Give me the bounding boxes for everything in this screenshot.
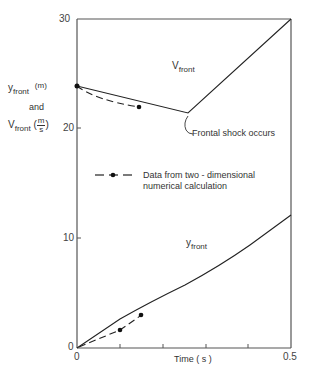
legend-text-line2: numerical calculation [143,182,227,191]
y-axis-label-and: and [29,103,68,112]
y-tick-label-10: 10 [63,233,74,243]
yfront-numerical-marker [139,313,144,318]
yfront-curve [77,215,291,348]
y-axis-label-y-sub: front [13,87,29,96]
legend-text-line1: Data from two - dimensional [143,171,255,180]
y-axis-label-v: V [8,119,15,130]
vfront-numerical-marker [137,105,142,110]
x-tick-label-0: 0 [74,352,80,362]
axis-ticks [77,128,248,348]
yfront-numerical-marker [118,328,123,333]
yfront-annotation: yfront [186,238,207,251]
x-tick-label-0-5: 0.5 [283,352,297,362]
y-tick-label-30: 30 [59,14,70,24]
x-axis-label: Time ( s ) [174,355,212,364]
shock-annotation: Frontal shock occurs [192,129,275,138]
y-axis-label-y-unit: (m) [35,81,47,90]
vfront-numerical-marker [75,84,80,89]
y-tick-label-0: 0 [68,342,74,352]
legend-marker [111,173,116,178]
yfront-numerical-dashed [79,314,143,347]
y-axis-label: yfront (m) and Vfront (ms) [8,83,68,134]
y-axis-label-v-sub: front [15,124,31,133]
vfront-annotation: Vfront [172,61,195,74]
vfront-numerical-dashed [77,86,139,107]
